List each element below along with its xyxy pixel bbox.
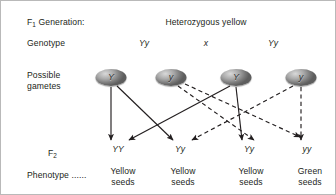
phenotype-4-line1: Green bbox=[298, 166, 322, 177]
arrow-layer bbox=[1, 1, 336, 195]
phenotype-3-line1: Yellow bbox=[238, 166, 263, 177]
gamete-oval-2: y bbox=[156, 69, 187, 86]
gamete-allele-1: Y bbox=[108, 73, 114, 82]
arrow-gamete2-to-Yy3 bbox=[185, 84, 300, 137]
arrow-gamete3-to-YY bbox=[129, 86, 230, 140]
gamete-allele-3: Y bbox=[233, 73, 239, 82]
phenotype-1-line2: seeds bbox=[111, 177, 134, 188]
gamete-oval-4: y bbox=[286, 69, 317, 86]
f2-genotype-3: Yy bbox=[244, 144, 254, 155]
phenotype-3-line2: seeds bbox=[239, 177, 262, 188]
arrow-gamete3-to-Yy3 bbox=[236, 87, 242, 140]
phenotype-2-line2: seeds bbox=[171, 177, 194, 188]
phenotype-1-line1: Yellow bbox=[110, 166, 135, 177]
gamete-oval-3: Y bbox=[221, 69, 252, 86]
gamete-oval-1: Y bbox=[96, 69, 127, 86]
f2-genotype-2: Yy bbox=[175, 144, 185, 155]
phenotype-4-line2: seeds bbox=[298, 177, 321, 188]
gamete-allele-2: y bbox=[169, 73, 174, 82]
f2-genotype-1: YY bbox=[112, 144, 124, 155]
f2-genotype-4: yy bbox=[303, 144, 312, 155]
diagram-frame: F1 Generation: Genotype Possible gametes… bbox=[0, 0, 336, 195]
gamete-allele-4: y bbox=[299, 73, 304, 82]
phenotype-2-line1: Yellow bbox=[170, 166, 195, 177]
